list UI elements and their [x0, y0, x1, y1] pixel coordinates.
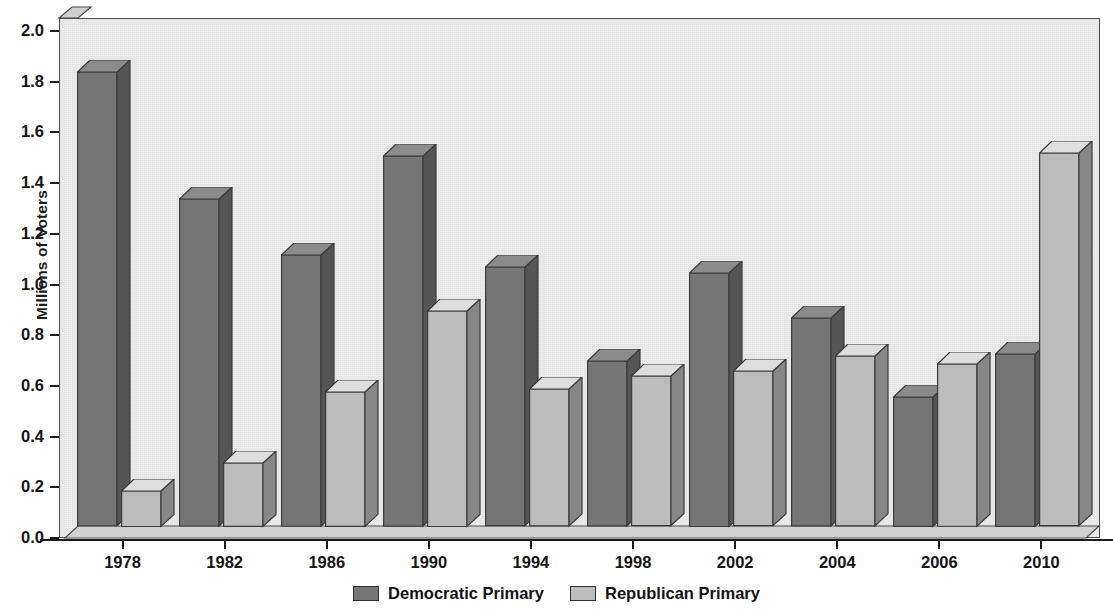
bar-front-face	[121, 491, 160, 526]
bar-side-face	[875, 344, 888, 526]
x-axis-line	[40, 539, 1113, 541]
y-tick-mark	[50, 385, 59, 387]
bar-front-face	[792, 318, 831, 526]
bar-front-face	[690, 273, 729, 527]
legend-item: Republican Primary	[570, 584, 760, 603]
bar-side-face	[467, 299, 480, 526]
bar-republican-1990	[427, 299, 480, 528]
y-tick-mark	[50, 334, 59, 336]
bar-republican-2004	[835, 344, 888, 528]
legend-label: Democratic Primary	[388, 584, 544, 603]
bar-front-face	[1040, 153, 1079, 526]
bar-republican-2002	[733, 359, 786, 528]
bar-front-face	[894, 397, 933, 526]
y-tick-label: 0.8	[0, 326, 44, 343]
x-tick-mark	[836, 540, 838, 549]
y-tick-mark	[50, 436, 59, 438]
y-tick-label: 1.0	[0, 276, 44, 293]
legend-swatch-icon	[353, 586, 379, 601]
bar-front-face	[530, 389, 569, 526]
x-tick-label: 2010	[981, 553, 1101, 572]
bar-chart: Millions of Voters 0.00.20.40.60.81.01.2…	[0, 0, 1113, 614]
y-tick-label: 0.0	[0, 529, 44, 546]
bar-republican-1978	[121, 479, 174, 528]
x-tick-mark	[326, 540, 328, 549]
y-tick-label: 1.2	[0, 225, 44, 242]
y-tick-label: 0.2	[0, 478, 44, 495]
y-tick-label: 1.8	[0, 73, 44, 90]
bar-side-face	[365, 380, 378, 526]
y-tick-mark	[50, 284, 59, 286]
legend-swatch-icon	[570, 586, 596, 601]
bar-front-face	[836, 356, 875, 526]
bar-front-face	[427, 311, 466, 526]
x-tick-mark	[122, 540, 124, 549]
y-tick-mark	[50, 81, 59, 83]
bar-front-face	[325, 392, 364, 526]
bar-republican-2006	[937, 352, 990, 528]
bar-front-face	[632, 376, 671, 526]
bar-side-face	[117, 60, 130, 526]
y-axis-tick-labels: 0.00.20.40.60.81.01.21.41.61.82.0	[0, 0, 44, 614]
bar-front-face	[179, 199, 218, 526]
x-tick-mark	[1040, 540, 1042, 549]
x-tick-mark	[632, 540, 634, 549]
y-tick-mark	[50, 233, 59, 235]
bar-side-face	[671, 364, 684, 526]
legend-item: Democratic Primary	[353, 584, 544, 603]
chart-legend: Democratic PrimaryRepublican Primary	[0, 584, 1113, 603]
y-tick-label: 1.4	[0, 174, 44, 191]
bar-front-face	[938, 364, 977, 526]
y-tick-label: 0.6	[0, 377, 44, 394]
bar-side-face	[977, 352, 990, 526]
bar-side-face	[569, 377, 582, 526]
bar-front-face	[734, 371, 773, 526]
bar-front-face	[223, 463, 262, 526]
bar-side-face	[773, 359, 786, 526]
bar-republican-1986	[325, 380, 378, 528]
y-tick-label: 0.4	[0, 428, 44, 445]
y-tick-mark	[50, 131, 59, 133]
legend-label: Republican Primary	[605, 584, 760, 603]
bar-republican-2010	[1039, 141, 1092, 528]
bar-side-face	[263, 451, 276, 526]
y-tick-mark	[50, 30, 59, 32]
x-tick-mark	[428, 540, 430, 549]
bar-side-face	[1079, 141, 1092, 526]
bar-front-face	[281, 255, 320, 526]
y-tick-mark	[50, 537, 59, 539]
bar-front-face	[486, 267, 525, 526]
bar-democratic-1978	[77, 60, 130, 528]
bar-front-face	[996, 354, 1035, 526]
bar-front-face	[383, 156, 422, 526]
bar-republican-1982	[223, 451, 276, 528]
bar-front-face	[588, 361, 627, 526]
bar-front-face	[77, 72, 116, 526]
bar-republican-1998	[631, 364, 684, 528]
y-tick-mark	[50, 182, 59, 184]
x-tick-mark	[734, 540, 736, 549]
bar-republican-1994	[529, 377, 582, 528]
y-tick-label: 1.6	[0, 123, 44, 140]
x-tick-mark	[224, 540, 226, 549]
x-tick-mark	[938, 540, 940, 549]
y-tick-mark	[50, 486, 59, 488]
y-tick-label: 2.0	[0, 22, 44, 39]
x-tick-mark	[530, 540, 532, 549]
